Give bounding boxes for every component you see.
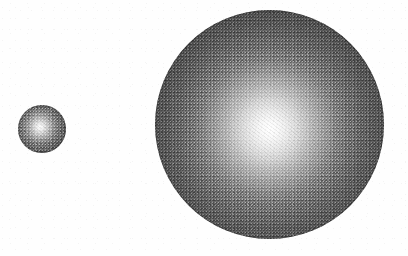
small-sphere-shading [18, 105, 66, 153]
small-sphere [18, 105, 66, 153]
figure-canvas [0, 0, 408, 256]
large-sphere-shading [155, 10, 384, 239]
large-sphere [155, 10, 384, 239]
